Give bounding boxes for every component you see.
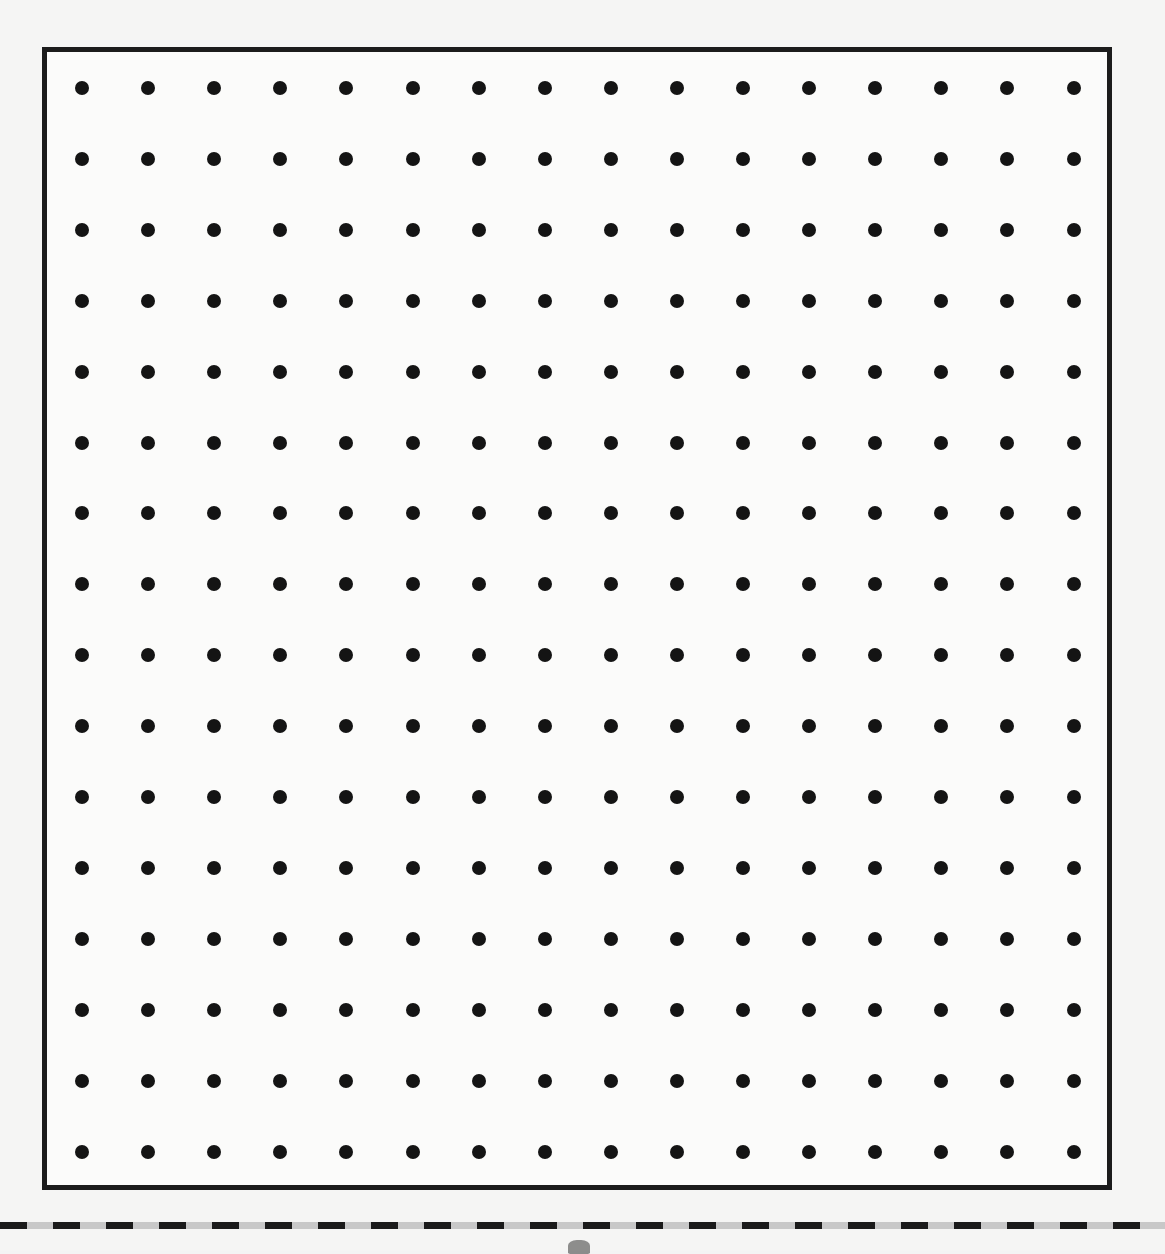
grid-dot: [1067, 1145, 1081, 1159]
grid-dot: [141, 81, 155, 95]
grid-dot: [538, 223, 552, 237]
grid-dot: [273, 790, 287, 804]
grid-dot: [339, 932, 353, 946]
grid-dot: [1000, 1074, 1014, 1088]
grid-dot: [472, 790, 486, 804]
grid-dot: [868, 861, 882, 875]
grid-dot: [1000, 790, 1014, 804]
grid-dot: [802, 577, 816, 591]
grid-dot: [207, 1003, 221, 1017]
grid-dot: [868, 152, 882, 166]
grid-dot: [670, 1003, 684, 1017]
grid-dot: [802, 365, 816, 379]
grid-dot: [472, 1145, 486, 1159]
grid-dot: [406, 932, 420, 946]
grid-dot: [207, 436, 221, 450]
grid-dot: [934, 152, 948, 166]
grid-dot: [736, 648, 750, 662]
grid-dot: [868, 648, 882, 662]
grid-dot: [141, 365, 155, 379]
grid-dot: [273, 365, 287, 379]
grid-dot: [934, 719, 948, 733]
grid-dot: [141, 790, 155, 804]
grid-dot: [670, 648, 684, 662]
grid-dot: [141, 152, 155, 166]
grid-dot: [604, 1003, 618, 1017]
grid-dot: [802, 861, 816, 875]
grid-dot: [75, 719, 89, 733]
grid-dot: [538, 1145, 552, 1159]
grid-dot: [472, 506, 486, 520]
grid-dot: [273, 294, 287, 308]
grid-dot: [736, 790, 750, 804]
grid-dot: [207, 719, 221, 733]
grid-dot: [736, 1145, 750, 1159]
grid-dot: [670, 719, 684, 733]
grid-dot: [604, 932, 618, 946]
grid-dot: [75, 294, 89, 308]
grid-dot: [736, 223, 750, 237]
grid-dot: [472, 436, 486, 450]
grid-dot: [736, 436, 750, 450]
grid-dot: [1000, 932, 1014, 946]
grid-dot: [538, 1003, 552, 1017]
grid-dot: [802, 81, 816, 95]
grid-dot: [736, 365, 750, 379]
grid-dot: [736, 506, 750, 520]
grid-dot: [934, 294, 948, 308]
grid-dot: [1000, 223, 1014, 237]
grid-dot: [538, 1074, 552, 1088]
grid-dot: [934, 223, 948, 237]
grid-dot: [934, 506, 948, 520]
grid-dot: [207, 223, 221, 237]
grid-dot: [1067, 1074, 1081, 1088]
grid-dot: [604, 436, 618, 450]
grid-dot: [472, 81, 486, 95]
grid-dot: [868, 81, 882, 95]
grid-dot: [141, 1145, 155, 1159]
grid-dot: [207, 1074, 221, 1088]
grid-dot: [406, 577, 420, 591]
dashed-cut-line: [0, 1222, 1165, 1229]
grid-dot: [273, 648, 287, 662]
grid-dot: [868, 365, 882, 379]
grid-dot: [273, 861, 287, 875]
grid-dot: [207, 152, 221, 166]
grid-dot: [1000, 506, 1014, 520]
scan-smudge-mark: [568, 1240, 590, 1254]
grid-dot: [1067, 294, 1081, 308]
grid-dot: [339, 223, 353, 237]
grid-dot: [802, 790, 816, 804]
grid-dot: [604, 1074, 618, 1088]
grid-dot: [141, 436, 155, 450]
grid-dot: [736, 1074, 750, 1088]
grid-dot: [339, 506, 353, 520]
grid-dot: [75, 152, 89, 166]
grid-dot: [406, 790, 420, 804]
grid-dot: [1000, 1145, 1014, 1159]
grid-dot: [1000, 365, 1014, 379]
grid-dot: [868, 1074, 882, 1088]
grid-dot: [604, 223, 618, 237]
grid-dot: [406, 1145, 420, 1159]
grid-dot: [538, 861, 552, 875]
grid-dot: [538, 719, 552, 733]
grid-dot: [934, 1145, 948, 1159]
grid-dot: [1067, 648, 1081, 662]
grid-dot: [1000, 1003, 1014, 1017]
grid-dot: [802, 932, 816, 946]
grid-dot: [604, 577, 618, 591]
grid-dot: [472, 1003, 486, 1017]
grid-dot: [736, 932, 750, 946]
grid-dot: [1067, 861, 1081, 875]
grid-dot: [207, 506, 221, 520]
grid-dot: [75, 648, 89, 662]
grid-dot: [670, 932, 684, 946]
grid-dot: [868, 790, 882, 804]
grid-dot: [670, 294, 684, 308]
grid-dot: [736, 861, 750, 875]
grid-dot: [75, 577, 89, 591]
grid-dot: [273, 1003, 287, 1017]
grid-dot: [1067, 1003, 1081, 1017]
